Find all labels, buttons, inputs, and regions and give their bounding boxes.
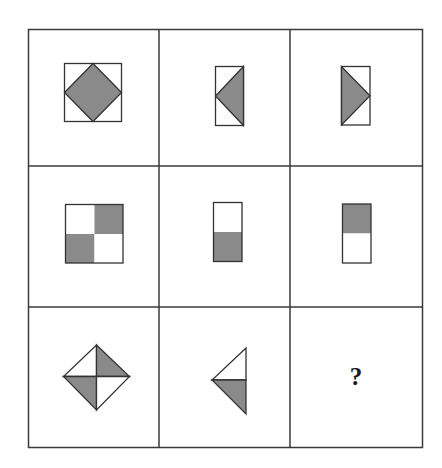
quarter-bottom-right — [95, 234, 124, 263]
cell-r3c1-split-diamond — [64, 345, 130, 410]
top-half-gray — [343, 204, 372, 234]
lower-half-gray — [212, 380, 246, 414]
quad-bottom-right — [97, 377, 130, 411]
cell-r3c2-split-triangle — [212, 348, 246, 414]
bottom-half — [343, 234, 372, 264]
cell-r1c1-square-with-diamond — [65, 64, 122, 122]
quad-bottom-left-gray — [64, 377, 97, 411]
bottom-half-gray — [214, 232, 243, 262]
puzzle-matrix: ? — [0, 0, 442, 468]
cell-r1c3-rect-right-triangle — [342, 67, 371, 126]
upper-half — [212, 348, 246, 380]
quarter-top-left — [66, 205, 95, 235]
cell-r2c3-rect-top-gray — [343, 204, 372, 263]
quarter-bottom-left-gray — [66, 234, 95, 263]
cell-r1c2-rect-left-triangle — [216, 67, 244, 126]
answer-question-mark: ? — [350, 363, 363, 390]
cell-r2c2-rect-bottom-gray — [214, 203, 243, 262]
top-half — [214, 203, 243, 233]
quad-top-left — [64, 345, 97, 377]
quarter-top-right-gray — [95, 205, 124, 235]
cell-r2c1-checker-square — [66, 205, 124, 264]
quad-top-right-gray — [97, 345, 130, 377]
